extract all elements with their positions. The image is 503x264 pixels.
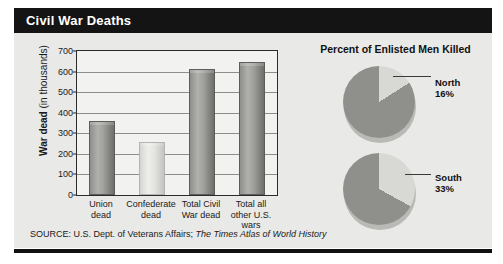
- pie-chart: [343, 66, 417, 144]
- bottom-rule: [14, 249, 492, 253]
- x-axis-label-line: dead: [76, 210, 126, 221]
- pie-label: South33%: [435, 172, 462, 194]
- y-axis-tick-label: 500: [58, 87, 73, 97]
- pie-label-name: North: [435, 77, 460, 88]
- pie-panel-heading: Percent of Enlisted Men Killed: [299, 43, 492, 55]
- x-axis-label: Confederatedead: [126, 199, 176, 220]
- infographic-page: Civil War Deaths War dead (in thousands)…: [0, 0, 503, 264]
- x-axis-label-line: Union: [76, 199, 126, 210]
- source-prefix: SOURCE: U.S. Dept. of Veterans Affairs;: [30, 229, 195, 239]
- bar-cap: [90, 122, 114, 125]
- y-axis-tick-mark: [73, 153, 77, 154]
- bar-chart-panel: War dead (in thousands) 0100200300400500…: [14, 33, 299, 249]
- plot-area: 0100200300400500600700: [76, 50, 278, 196]
- y-axis-tick-mark: [73, 195, 77, 196]
- x-axis-label: Total CivilWar dead: [176, 199, 226, 220]
- pie-label: North16%: [435, 77, 460, 99]
- bar: [89, 121, 115, 195]
- pie-chart: [343, 153, 417, 231]
- pie-label-name: South: [435, 172, 462, 183]
- y-axis-tick-mark: [73, 92, 77, 93]
- x-axis-label-line: other U.S.: [226, 210, 276, 221]
- title-bar: Civil War Deaths: [14, 8, 492, 33]
- y-axis-label-bold: War dead: [38, 111, 49, 156]
- bar-cap: [190, 70, 214, 73]
- x-axis-label-line: Confederate: [126, 199, 176, 210]
- pie-leader-line: [393, 76, 431, 77]
- y-axis-tick-label: 300: [58, 128, 73, 138]
- pie-slices: [343, 153, 415, 225]
- bar-cap: [240, 63, 264, 66]
- bar: [239, 62, 265, 195]
- y-axis-tick-label: 100: [58, 169, 73, 179]
- x-axis-label: Total allother U.S.wars: [226, 199, 276, 231]
- y-axis-tick-label: 600: [58, 67, 73, 77]
- pie-leader-line: [405, 174, 431, 175]
- x-axis-label-line: Total Civil: [176, 199, 226, 210]
- pie-chart-panel: Percent of Enlisted Men Killed North16%S…: [299, 33, 492, 249]
- pie-slices: [343, 66, 415, 138]
- y-axis-label-rest: (in thousands): [38, 45, 49, 111]
- y-axis-tick-label: 400: [58, 108, 73, 118]
- y-axis-label: War dead (in thousands): [38, 26, 49, 176]
- x-axis-label-line: dead: [126, 210, 176, 221]
- y-axis-tick-mark: [73, 112, 77, 113]
- x-axis-label-line: War dead: [176, 210, 226, 221]
- y-axis-tick-mark: [73, 51, 77, 52]
- bar-cap: [140, 143, 164, 146]
- pie-label-value: 33%: [435, 183, 462, 194]
- x-axis-label-line: Total all: [226, 199, 276, 210]
- y-axis-tick-mark: [73, 174, 77, 175]
- x-axis-label: Uniondead: [76, 199, 126, 220]
- y-axis-tick-label: 700: [58, 46, 73, 56]
- y-axis-tick-mark: [73, 133, 77, 134]
- bar: [139, 142, 165, 195]
- source-note: SOURCE: U.S. Dept. of Veterans Affairs; …: [30, 229, 327, 239]
- y-axis-tick-mark: [73, 71, 77, 72]
- pie-label-value: 16%: [435, 88, 460, 99]
- bar: [189, 69, 215, 195]
- y-axis-tick-label: 200: [58, 149, 73, 159]
